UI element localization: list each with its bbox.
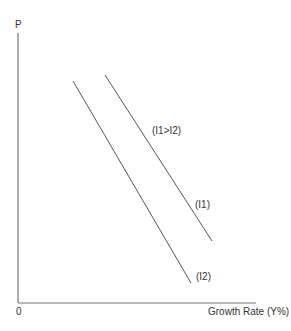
x-axis-label: Growth Rate (Y%) (208, 306, 289, 317)
curve-i2 (73, 81, 191, 283)
y-axis-label: P (15, 19, 22, 30)
curve-i1-label: (I1) (195, 199, 210, 210)
curve-i1 (105, 75, 212, 241)
origin-label: 0 (16, 306, 22, 317)
diagram-canvas (0, 0, 291, 331)
curve-i2-label: (I2) (196, 271, 211, 282)
annotation-label: (I1>I2) (152, 125, 181, 136)
